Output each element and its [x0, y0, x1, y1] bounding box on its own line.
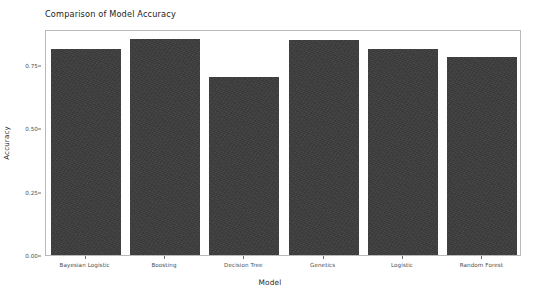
y-tick-label: 0.75 — [25, 63, 38, 69]
bar-chart: Comparison of Model Accuracy Accuracy 0.… — [0, 0, 540, 299]
bar-decision-tree — [209, 77, 279, 255]
x-tick-label: Random Forest — [460, 262, 503, 268]
x-tick-label: Boosting — [151, 262, 176, 268]
y-tick-mark — [38, 129, 41, 130]
x-tick-mark — [481, 256, 482, 259]
x-tick-label: Genetics — [310, 262, 335, 268]
x-tick-mark — [323, 256, 324, 259]
y-axis-ticks: 0.000.250.500.75 — [0, 30, 38, 256]
x-tick-mark — [85, 256, 86, 259]
y-tick-label: 0.00 — [25, 253, 38, 259]
y-tick-mark — [38, 65, 41, 66]
x-tick-mark — [402, 256, 403, 259]
x-tick-mark — [164, 256, 165, 259]
bars-layer — [46, 31, 520, 255]
bar-genetics — [289, 40, 359, 255]
x-axis-title: Model — [0, 278, 540, 287]
bar-boosting — [130, 39, 200, 255]
bar-random-forest — [447, 57, 517, 255]
bar-logistic — [368, 49, 438, 255]
plot-panel — [45, 30, 521, 256]
bar-bayesian-logistic — [51, 49, 121, 255]
x-tick-label: Logistic — [391, 262, 413, 268]
x-axis-ticks: Bayesian LogisticBoostingDecision TreeGe… — [45, 256, 521, 276]
y-tick-label: 0.50 — [25, 126, 38, 132]
chart-title: Comparison of Model Accuracy — [45, 9, 176, 20]
x-tick-label: Bayesian Logistic — [60, 262, 110, 268]
y-tick-label: 0.25 — [25, 190, 38, 196]
y-tick-mark — [38, 256, 41, 257]
plot-area — [46, 31, 520, 255]
x-tick-label: Decision Tree — [224, 262, 263, 268]
y-tick-mark — [38, 192, 41, 193]
x-tick-mark — [243, 256, 244, 259]
